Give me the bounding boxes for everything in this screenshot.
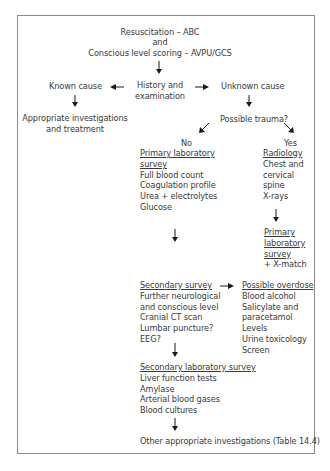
arrow-down-icon bbox=[71, 95, 79, 108]
secondary-survey-title: Secondary survey bbox=[140, 280, 220, 291]
list-item: Liver function tests bbox=[140, 373, 256, 384]
list-item: Arterial blood gases bbox=[140, 394, 256, 405]
possible-trauma-question: Possible trauma? bbox=[220, 114, 288, 125]
and-text: and bbox=[60, 37, 260, 48]
secondary-lab-survey: Secondary laboratory survey Liver functi… bbox=[140, 362, 256, 416]
arrow-right-icon bbox=[195, 83, 209, 91]
list-item: Cranial CT scan bbox=[140, 312, 220, 323]
arrow-down-icon bbox=[155, 61, 163, 75]
other-investigations-text: Other appropriate investigations (Table … bbox=[140, 436, 320, 447]
unknown-cause-label: Unknown cause bbox=[221, 81, 284, 92]
arrow-down-icon bbox=[171, 229, 179, 243]
arrow-down-left-icon bbox=[198, 122, 210, 134]
list-item: and conscious level bbox=[140, 302, 220, 313]
primary-lab-survey-trauma-title-2: laboratory bbox=[264, 238, 307, 249]
primary-lab-survey-title-2: survey bbox=[140, 159, 217, 170]
list-item: X-rays bbox=[263, 191, 304, 202]
radiology-block: Radiology Chest and cervical spine X-ray… bbox=[263, 148, 304, 202]
list-item: Further neurological bbox=[140, 291, 220, 302]
possible-overdose: Possible overdose Blood alcohol Salicyla… bbox=[242, 280, 314, 356]
secondary-lab-survey-title: Secondary laboratory survey bbox=[140, 362, 256, 373]
primary-lab-survey-trauma: Primary laboratory survey + X-match bbox=[264, 227, 307, 270]
list-item: Chest and bbox=[263, 159, 304, 170]
known-cause-label: Known cause bbox=[49, 81, 102, 92]
list-item: paracetamol bbox=[242, 312, 314, 323]
appropriate-investigations-text: Appropriate investigations bbox=[20, 113, 130, 124]
possible-overdose-title: Possible overdose bbox=[242, 280, 314, 291]
list-item: Coagulation profile bbox=[140, 180, 217, 191]
and-treatment-text: and treatment bbox=[20, 124, 130, 135]
x-match-text: + X-match bbox=[264, 259, 307, 270]
list-item: EEG? bbox=[140, 334, 220, 345]
radiology-title: Radiology bbox=[263, 148, 304, 159]
list-item: cervical bbox=[263, 170, 304, 181]
primary-lab-survey-trauma-title-3: survey bbox=[264, 249, 307, 260]
list-item: Salicylate and bbox=[242, 302, 314, 313]
list-item: spine bbox=[263, 180, 304, 191]
arrow-down-icon bbox=[272, 209, 280, 223]
arrow-down-icon bbox=[171, 343, 179, 358]
list-item: Amylase bbox=[140, 384, 256, 395]
arrow-down-icon bbox=[171, 418, 179, 432]
primary-lab-survey: Primary laboratory survey Full blood cou… bbox=[140, 148, 217, 213]
primary-lab-survey-title: Primary laboratory bbox=[140, 148, 217, 159]
secondary-survey: Secondary survey Further neurological an… bbox=[140, 280, 220, 345]
list-item: Glucose bbox=[140, 202, 217, 213]
list-item: Urine toxicology bbox=[242, 334, 314, 345]
conscious-level-text: Conscious level scoring – AVPU/GCS bbox=[60, 48, 260, 59]
list-item: Full blood count bbox=[140, 170, 217, 181]
arrow-down-icon bbox=[245, 95, 253, 108]
primary-lab-survey-trauma-title-1: Primary bbox=[264, 227, 307, 238]
list-item: Blood alcohol bbox=[242, 291, 314, 302]
arrow-left-icon bbox=[110, 83, 124, 91]
list-item: Urea + electrolytes bbox=[140, 191, 217, 202]
history-text: History and bbox=[120, 80, 200, 91]
list-item: Lumbar puncture? bbox=[140, 323, 220, 334]
list-item: Levels bbox=[242, 323, 314, 334]
arrow-down-right-icon bbox=[283, 122, 295, 134]
examination-text: examination bbox=[120, 91, 200, 102]
list-item: Blood cultures bbox=[140, 405, 256, 416]
arrow-right-icon bbox=[220, 282, 234, 290]
list-item: Screen bbox=[242, 345, 314, 356]
